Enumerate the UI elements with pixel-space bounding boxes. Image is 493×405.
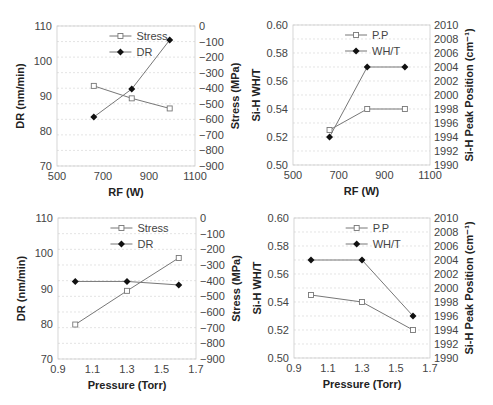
y2-tick-label: −300 <box>199 67 224 79</box>
y2-tick-label: 2008 <box>434 226 458 238</box>
y2-tick-label: 2002 <box>434 268 458 280</box>
chart-bottom-left: 7080901001100−100−200−300−400−500−600−70… <box>15 212 242 391</box>
y2-tick-label: 2010 <box>434 212 458 224</box>
y2-tick-label: 1998 <box>434 103 458 115</box>
x-tick-label: 900 <box>140 170 158 182</box>
y2-tick-label: −600 <box>199 113 224 125</box>
square-marker <box>365 107 370 112</box>
diamond-marker <box>175 281 182 288</box>
x-tick-label: 1.3 <box>119 363 134 375</box>
y2-tick-label: 1994 <box>434 131 458 143</box>
y2-tick-label: 2002 <box>434 75 458 87</box>
y-tick-label: 0.56 <box>268 268 289 280</box>
diamond-marker <box>326 134 333 141</box>
y-tick-label: 0.56 <box>267 75 288 87</box>
y2-tick-label: 1996 <box>434 310 458 322</box>
x-tick-label: 0.9 <box>286 362 301 374</box>
x-tick-label: 1.3 <box>354 362 369 374</box>
y-tick-label: 90 <box>41 283 53 295</box>
y2-tick-label: −100 <box>199 36 224 48</box>
x-tick-label: 1.1 <box>320 362 335 374</box>
y2-tick-label: 2004 <box>434 254 458 266</box>
legend-square-icon <box>354 33 359 38</box>
y2-tick-label: −800 <box>199 144 224 156</box>
x-tick-label: 1100 <box>183 170 207 182</box>
y-tick-label: 0.58 <box>268 240 289 252</box>
y-tick-label: 0.60 <box>268 212 289 224</box>
y2-tick-label: 1998 <box>434 296 458 308</box>
diamond-marker <box>124 278 131 285</box>
y-tick-label: 0.54 <box>268 296 289 308</box>
legend-square-icon <box>118 34 123 39</box>
x-tick-label: 700 <box>329 169 347 181</box>
y-tick-label: 110 <box>34 20 52 32</box>
x-tick-label: 500 <box>284 169 302 181</box>
y-tick-label: 0.54 <box>267 103 288 115</box>
diamond-marker <box>90 114 97 121</box>
y2-tick-label: −300 <box>200 259 225 271</box>
y2-tick-label: −200 <box>199 51 224 63</box>
diamond-marker <box>401 64 408 71</box>
y-tick-label: 100 <box>34 55 52 67</box>
chart-top-right: 0.500.520.540.560.580.601990199219941996… <box>250 19 475 197</box>
x-axis-label: Pressure (Torr) <box>88 379 167 391</box>
y2-tick-label: 2004 <box>434 61 458 73</box>
y2-tick-label: 2010 <box>434 19 458 31</box>
y-tick-label: 0.52 <box>268 324 289 336</box>
y2-tick-label: 1994 <box>434 324 458 336</box>
y2-tick-label: −600 <box>200 306 225 318</box>
x-tick-label: 700 <box>94 170 112 182</box>
diamond-marker <box>364 64 371 71</box>
x-tick-label: 1.1 <box>85 363 100 375</box>
x-tick-label: 1.7 <box>188 363 203 375</box>
y2-tick-label: 1996 <box>434 117 458 129</box>
square-marker <box>167 106 172 111</box>
y2-tick-label: −800 <box>200 337 225 349</box>
x-axis-label: Pressure (Torr) <box>323 378 402 390</box>
y2-tick-label: 1990 <box>434 352 458 364</box>
y2-tick-label: −500 <box>200 290 225 302</box>
square-marker <box>125 288 130 293</box>
y2-tick-label: 2008 <box>434 33 458 45</box>
y2-axis-label: Si-H Peak Position (cm⁻¹) <box>463 28 475 161</box>
legend-label: Stress <box>137 222 169 234</box>
y2-tick-label: 1992 <box>434 338 458 350</box>
chart-top-left: 7080901001100−100−200−300−400−500−600−70… <box>14 20 241 198</box>
legend-label: WH/T <box>372 45 400 57</box>
legend-square-icon <box>119 226 124 231</box>
y2-axis-label: Stress (MPa) <box>229 62 241 129</box>
figure-canvas: 7080901001100−100−200−300−400−500−600−70… <box>0 0 493 405</box>
x-tick-label: 1.5 <box>388 362 403 374</box>
legend-diamond-icon <box>118 241 125 248</box>
legend-label: Stress <box>136 30 168 42</box>
y2-tick-label: 2000 <box>434 282 458 294</box>
y2-axis-label: Si-H Peak Position (cm⁻¹) <box>463 221 475 354</box>
chart-bottom-right: 0.500.520.540.560.580.601990199219941996… <box>251 212 475 390</box>
y-axis-label: DR (nm/min) <box>15 255 27 321</box>
square-marker <box>327 128 332 133</box>
y-tick-label: 0.52 <box>267 131 288 143</box>
y2-tick-label: 2000 <box>434 89 458 101</box>
square-marker <box>411 328 416 333</box>
legend-diamond-icon <box>353 241 360 248</box>
square-marker <box>176 255 181 260</box>
y-tick-label: 100 <box>35 247 53 259</box>
y2-tick-label: −500 <box>199 98 224 110</box>
legend-label: P.P <box>372 29 388 41</box>
y-axis-label: Si-H WH/T <box>250 68 262 121</box>
square-marker <box>402 107 407 112</box>
y-tick-label: 0.58 <box>267 47 288 59</box>
y-tick-label: 90 <box>40 90 52 102</box>
x-tick-label: 900 <box>375 169 393 181</box>
x-tick-label: 500 <box>48 170 66 182</box>
diamond-marker <box>72 278 79 285</box>
x-tick-label: 1.5 <box>154 363 169 375</box>
x-tick-label: 1100 <box>418 169 442 181</box>
x-tick-label: 1.7 <box>422 362 437 374</box>
y-tick-label: 110 <box>35 212 53 224</box>
legend-diamond-icon <box>353 48 360 55</box>
y2-tick-label: −700 <box>200 322 225 334</box>
y2-tick-label: −200 <box>200 243 225 255</box>
y-axis-label: Si-H WH/T <box>251 261 263 314</box>
y-axis-label: DR (nm/min) <box>14 63 26 129</box>
